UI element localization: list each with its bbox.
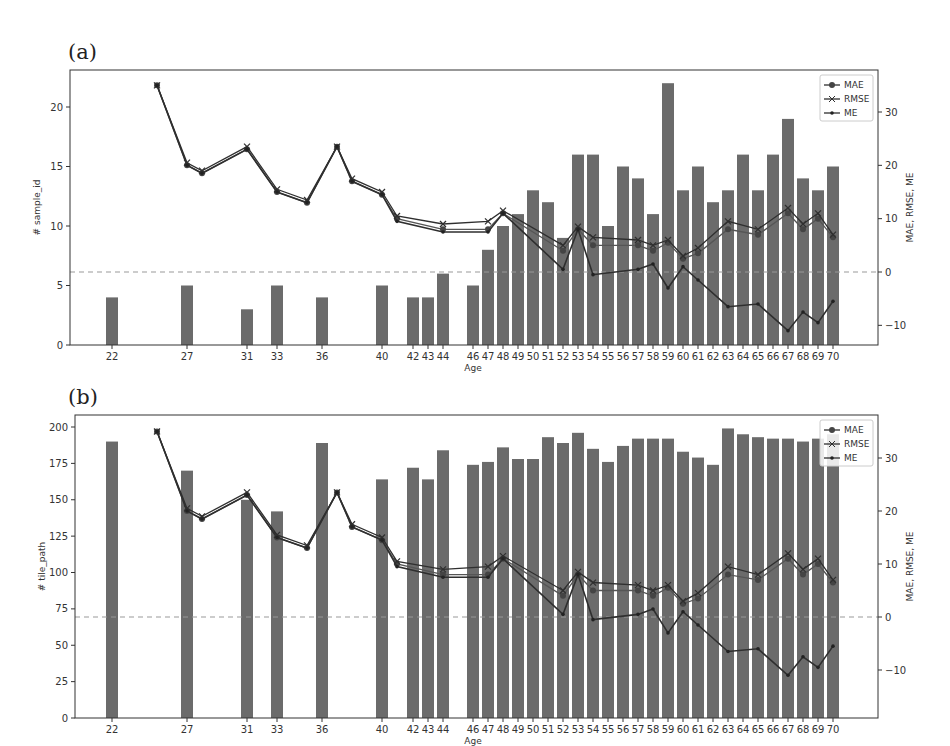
x-tick: 56 (617, 351, 630, 362)
y-left-tick: 200 (49, 422, 68, 433)
y-right-axis-label: MAE, RMSE, ME (905, 531, 915, 601)
x-tick: 55 (602, 351, 615, 362)
x-tick: 60 (677, 351, 690, 362)
bar-age-59 (662, 439, 674, 718)
bar-age-69 (812, 439, 824, 718)
x-tick: 54 (587, 724, 600, 735)
bar-age-61 (692, 458, 704, 718)
x-tick: 59 (662, 724, 675, 735)
bar-age-50 (527, 190, 539, 345)
x-tick: 22 (106, 724, 119, 735)
bar-age-43 (422, 297, 434, 345)
x-tick: 33 (271, 724, 284, 735)
legend-item-me: ME (844, 453, 858, 463)
bar-age-44 (437, 450, 449, 718)
bar-age-40 (376, 479, 388, 718)
bar-age-48 (497, 226, 509, 345)
x-tick: 31 (241, 724, 254, 735)
bar-age-57 (632, 439, 644, 718)
bar-age-63 (722, 190, 734, 345)
x-tick: 49 (512, 724, 525, 735)
y-right-tick: 0 (885, 612, 891, 623)
bar-age-67 (782, 119, 794, 345)
bar-age-49 (512, 459, 524, 718)
bar-age-70 (827, 167, 839, 346)
x-tick: 62 (707, 724, 720, 735)
x-axis-label: Age (464, 736, 482, 746)
y-right-tick: 20 (885, 506, 898, 517)
legend-item-mae: MAE (844, 425, 864, 435)
bar-age-27 (181, 286, 193, 346)
x-tick: 40 (376, 724, 389, 735)
x-tick: 42 (407, 351, 420, 362)
bar-age-22 (106, 442, 118, 718)
y-left-tick: 0 (57, 340, 63, 351)
bar-age-48 (497, 447, 509, 718)
bar-age-54 (587, 449, 599, 718)
bar-age-59 (662, 83, 674, 345)
bar-age-64 (737, 155, 749, 345)
bar-age-52 (557, 238, 569, 345)
chart-panel-a: 05101520−1001020302227313336404243444647… (32, 70, 915, 373)
bar-age-51 (542, 202, 554, 345)
bar-age-52 (557, 443, 569, 718)
y-right-tick: 20 (885, 160, 898, 171)
x-tick: 27 (181, 724, 194, 735)
y-right-tick: 30 (885, 107, 898, 118)
y-right-tick: 10 (885, 559, 898, 570)
x-tick: 61 (692, 724, 705, 735)
bar-age-58 (647, 214, 659, 345)
x-tick: 54 (587, 351, 600, 362)
bar-age-22 (106, 297, 118, 345)
y-right-tick: 10 (885, 213, 898, 224)
x-tick: 44 (437, 724, 450, 735)
y-left-tick: 10 (50, 221, 63, 232)
bar-age-68 (797, 442, 809, 718)
legend: MAERMSEME (820, 75, 873, 121)
x-tick: 52 (557, 724, 570, 735)
bar-age-46 (467, 465, 479, 718)
bar-age-44 (437, 274, 449, 345)
bar-age-49 (512, 214, 524, 345)
x-tick: 40 (376, 351, 389, 362)
x-axis-label: Age (464, 363, 482, 373)
bar-age-65 (752, 190, 764, 345)
y-right-tick: −10 (885, 665, 906, 676)
x-tick: 67 (782, 724, 795, 735)
bar-age-62 (707, 202, 719, 345)
x-tick: 68 (797, 724, 810, 735)
legend-item-rmse: RMSE (844, 94, 870, 104)
x-tick: 47 (482, 724, 495, 735)
y-right-axis-label: MAE, RMSE, ME (905, 172, 915, 242)
legend-item-rmse: RMSE (844, 439, 870, 449)
x-tick: 63 (722, 351, 735, 362)
bar-age-58 (647, 439, 659, 718)
x-tick: 47 (482, 351, 495, 362)
bar-age-50 (527, 459, 539, 718)
bar-age-60 (677, 452, 689, 718)
bar-age-36 (316, 297, 328, 345)
x-tick: 60 (677, 724, 690, 735)
bar-age-54 (587, 155, 599, 345)
bar-age-40 (376, 286, 388, 346)
x-tick: 61 (692, 351, 705, 362)
x-tick: 43 (422, 351, 435, 362)
bar-age-53 (572, 155, 584, 345)
y-left-axis-label: # tile_path (37, 542, 47, 591)
bar-age-46 (467, 286, 479, 346)
x-tick: 27 (181, 351, 194, 362)
x-tick: 33 (271, 351, 284, 362)
x-tick: 57 (632, 724, 645, 735)
x-tick: 50 (527, 724, 540, 735)
legend-item-mae: MAE (844, 80, 864, 90)
x-tick: 58 (647, 351, 660, 362)
legend-item-me: ME (844, 108, 858, 118)
x-tick: 56 (617, 724, 630, 735)
bar-age-66 (767, 439, 779, 718)
x-tick: 42 (407, 724, 420, 735)
bar-age-42 (407, 297, 419, 345)
y-left-tick: 75 (55, 603, 68, 614)
bar-age-42 (407, 468, 419, 718)
y-right-tick: −10 (885, 320, 906, 331)
bar-age-33 (271, 286, 283, 346)
